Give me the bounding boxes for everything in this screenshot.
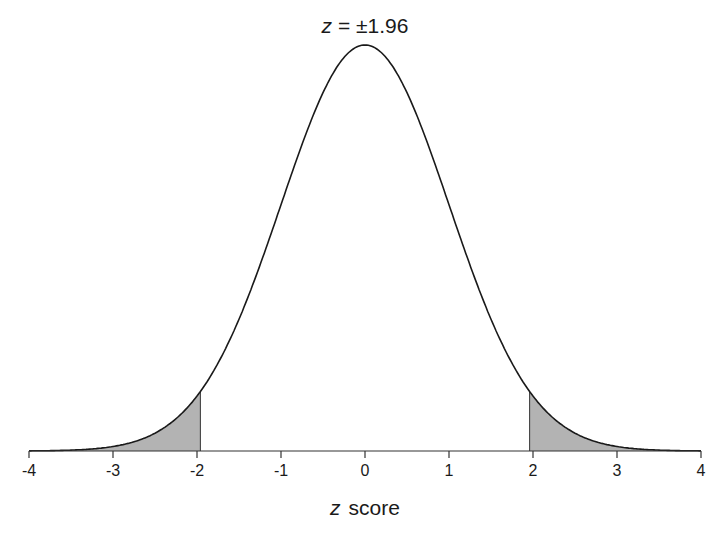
x-tick-label: 4 <box>697 462 706 480</box>
x-tick-label: -2 <box>190 462 204 480</box>
x-tick-label: -3 <box>106 462 120 480</box>
normal-curve-plot <box>0 0 726 533</box>
x-tick-label: 1 <box>445 462 454 480</box>
left-tail-shaded-region <box>29 392 200 452</box>
title-variable: z <box>322 14 333 37</box>
x-tick-label: -1 <box>274 462 288 480</box>
xlabel-text: score <box>349 496 400 519</box>
x-axis-label: zscore <box>330 496 400 520</box>
x-tick-label: 0 <box>361 462 370 480</box>
x-tick-label: 2 <box>529 462 538 480</box>
chart-title: z = ±1.96 <box>0 14 726 38</box>
title-value: = ±1.96 <box>338 14 409 37</box>
x-axis-ticks <box>29 451 701 458</box>
x-tick-label: 3 <box>613 462 622 480</box>
x-tick-label: -4 <box>22 462 36 480</box>
right-tail-shaded-region <box>530 392 701 452</box>
xlabel-variable: z <box>330 496 341 519</box>
density-curve <box>29 45 701 451</box>
